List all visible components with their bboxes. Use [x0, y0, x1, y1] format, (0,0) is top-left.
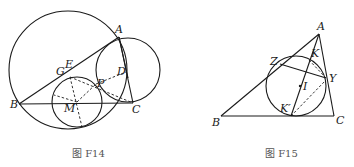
label-b: B — [211, 116, 220, 129]
caption-f14: 图 F14 — [72, 148, 105, 159]
label-i: I — [302, 80, 308, 93]
label-g: G — [56, 65, 65, 78]
segment-ba — [221, 34, 319, 116]
label-d: D — [116, 65, 126, 78]
dashed-kprime-y — [291, 80, 326, 116]
label-a: A — [316, 20, 325, 33]
figure-f14: A B C D E G P M 图 F14 — [9, 11, 160, 159]
dashed-m-left — [54, 95, 77, 102]
label-p: P — [96, 77, 105, 90]
figure-f15: A B C Z Y K I K′ 图 F15 — [211, 20, 345, 159]
circle-through-a-d-p — [96, 38, 160, 102]
label-m: M — [63, 102, 76, 115]
label-y: Y — [329, 72, 338, 85]
label-c: C — [336, 114, 345, 127]
label-k: K — [310, 47, 320, 60]
caption-f15: 图 F15 — [265, 148, 298, 159]
label-c: C — [132, 103, 141, 116]
label-b: B — [9, 98, 18, 111]
incenter-point — [299, 85, 301, 87]
label-k-prime: K′ — [279, 102, 291, 115]
label-e: E — [64, 58, 73, 71]
dashed-m-p — [77, 84, 96, 102]
geometry-figures: A B C D E G P M 图 F14 A B C Z Y K I K′ 图… — [0, 0, 354, 167]
label-z: Z — [269, 55, 278, 68]
label-a: A — [114, 23, 123, 36]
